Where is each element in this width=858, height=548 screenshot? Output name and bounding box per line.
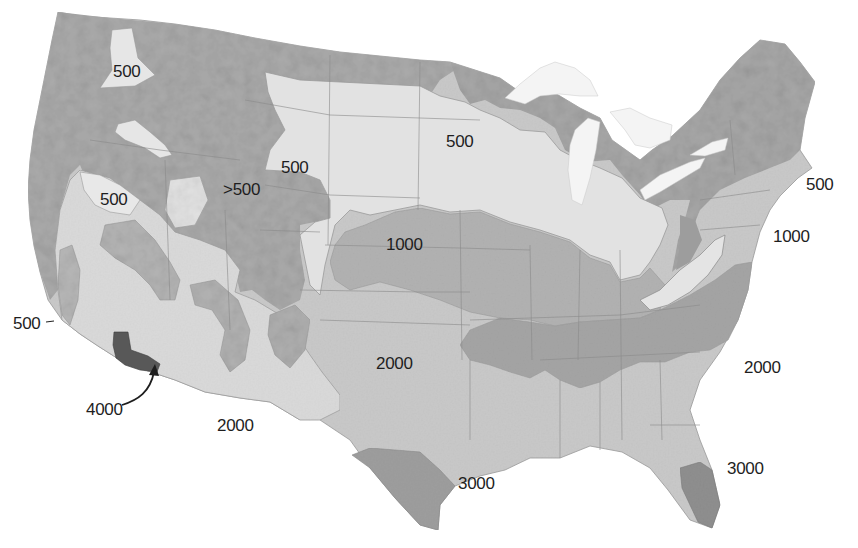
label-ca-coast-500: 500 bbox=[13, 315, 40, 332]
label-gulf-3000: 3000 bbox=[458, 475, 495, 492]
label-fl-3000: 3000 bbox=[727, 460, 764, 477]
label-ut-gt500: >500 bbox=[223, 181, 260, 198]
label-md-1000: 1000 bbox=[773, 228, 810, 245]
leader-line-ca-500 bbox=[46, 321, 54, 322]
label-ks-1000: 1000 bbox=[386, 236, 423, 253]
zone-florida-3000 bbox=[680, 462, 720, 528]
lake-huron bbox=[610, 108, 672, 148]
label-az-2000: 2000 bbox=[217, 417, 254, 434]
label-mn-500: 500 bbox=[446, 133, 473, 150]
label-ca-4000: 4000 bbox=[86, 401, 123, 418]
label-wy-500: 500 bbox=[281, 159, 308, 176]
us-contour-map: 500 500 500 500 500 >500 1000 1000 500 2… bbox=[0, 0, 858, 548]
label-nv-500: 500 bbox=[100, 191, 127, 208]
label-se-2000: 2000 bbox=[744, 359, 781, 376]
label-nw-500: 500 bbox=[113, 63, 140, 80]
label-tx-2000: 2000 bbox=[376, 355, 413, 372]
label-ne-500: 500 bbox=[806, 176, 833, 193]
